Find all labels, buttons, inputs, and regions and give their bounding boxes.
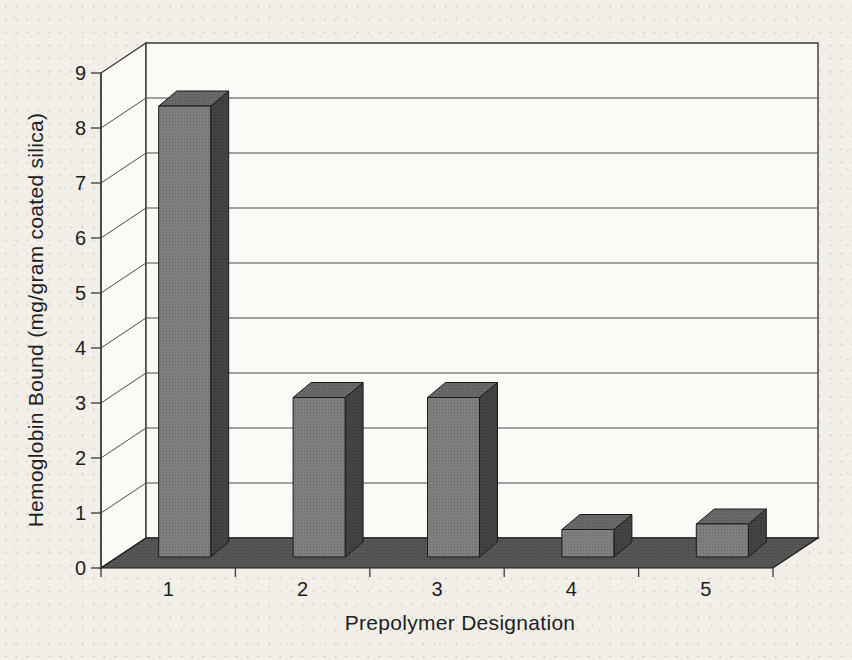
bar-front-face xyxy=(159,106,211,557)
left-wall xyxy=(101,43,146,568)
y-axis-tick-label: 9 xyxy=(75,62,86,84)
y-axis-tick-label: 3 xyxy=(75,392,86,414)
bar-side-face xyxy=(345,383,363,558)
x-axis-tick-label: 5 xyxy=(700,578,711,600)
bar-chart-canvas: 012345678912345 xyxy=(0,0,852,660)
bar-front-face xyxy=(428,398,480,558)
x-axis-tick-label: 2 xyxy=(297,578,308,600)
x-axis-tick-label: 3 xyxy=(431,578,442,600)
scanned-figure-page: 012345678912345 Hemoglobin Bound (mg/gra… xyxy=(0,0,852,660)
bar-side-face xyxy=(211,91,229,557)
bar-front-face xyxy=(696,524,748,557)
x-axis-tick-label: 4 xyxy=(566,578,577,600)
y-axis-tick-label: 4 xyxy=(75,337,86,359)
x-axis-title: Prepolymer Designation xyxy=(135,611,785,637)
y-axis-tick-label: 2 xyxy=(75,447,86,469)
y-axis-tick-label: 5 xyxy=(75,282,86,304)
y-axis-title: Hemoglobin Bound (mg/gram coated silica) xyxy=(22,40,50,600)
y-axis-tick-label: 7 xyxy=(75,172,86,194)
bar-side-face xyxy=(480,383,498,558)
bar-front-face xyxy=(293,398,345,558)
y-axis-tick-label: 0 xyxy=(75,557,86,579)
bar-front-face xyxy=(562,530,614,558)
y-axis-tick-label: 8 xyxy=(75,117,86,139)
y-axis-tick-label: 6 xyxy=(75,227,86,249)
x-axis-tick-label: 1 xyxy=(163,578,174,600)
y-axis-tick-label: 1 xyxy=(75,502,86,524)
